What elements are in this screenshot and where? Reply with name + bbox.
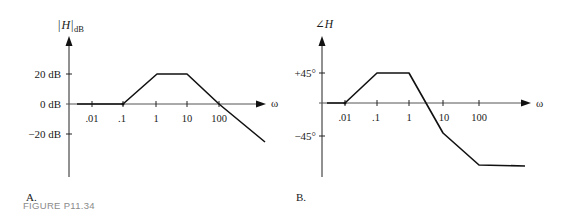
panel-a-xlabel: ω	[271, 97, 278, 109]
panel-b-xtick-label: 10	[439, 112, 450, 123]
panel-b-ylabel: ∠H	[315, 18, 334, 30]
panel-a-ytick-label: −20 dB	[28, 128, 61, 140]
panel-b-xtick-label: 1	[406, 112, 411, 123]
panel-a-magnitude-curve	[77, 74, 265, 142]
panel-a-ytick-label: 20 dB	[34, 68, 61, 80]
panel-a-xtick-label: .01	[85, 113, 98, 124]
panel-a-xtick-label: 100	[211, 113, 227, 124]
panel-a-y-axis-arrow-icon	[66, 36, 73, 46]
figure-canvas: | H | dB 20 dB 0 dB −20 dB .01 .1 1 10 1…	[0, 0, 570, 221]
figure-caption: FIGURE P11.34	[23, 200, 95, 211]
panel-a-ytick-label: 0 dB	[40, 98, 61, 110]
panel-b-y-axis-arrow-icon	[319, 36, 326, 46]
panel-b-label: B.	[296, 191, 306, 203]
panel-a-ylabel-sub: dB	[74, 24, 84, 34]
panel-b-phase-curve	[327, 73, 525, 166]
panel-a-xtick-label: 10	[182, 113, 193, 124]
panel-b-ytick-label: +45°	[294, 67, 316, 79]
panel-a-ylabel-bar-left: |	[58, 18, 60, 32]
panel-b-phase-plot: ∠H +45° −45° .01 .1 1 10 100 ω B.	[294, 18, 543, 203]
panel-b-xtick-label: 100	[471, 112, 487, 123]
panel-b-xtick-label: .01	[338, 112, 351, 123]
panel-b-xlabel: ω	[536, 97, 543, 109]
panel-b-xtick-label: .1	[372, 112, 380, 123]
panel-a-ylabel: H	[61, 18, 72, 32]
panel-a-xtick-label: .1	[118, 113, 126, 124]
panel-a-x-axis-arrow-icon	[256, 101, 266, 108]
panel-a-xtick-label: 1	[153, 113, 158, 124]
panel-a-magnitude-plot: | H | dB 20 dB 0 dB −20 dB .01 .1 1 10 1…	[26, 18, 278, 203]
panel-b-x-axis-arrow-icon	[521, 100, 531, 107]
panel-b-ytick-label: −45°	[294, 130, 316, 142]
